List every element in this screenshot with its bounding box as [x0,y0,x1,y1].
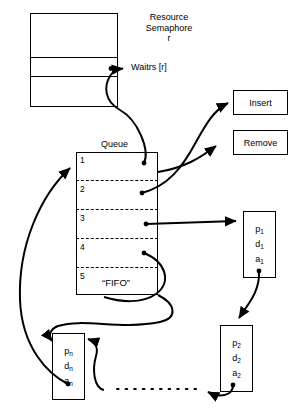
insert-box[interactable]: Insert [233,90,288,115]
queue-divider-2 [76,209,158,210]
semaphore-title: Resource Semaphore r [126,12,212,44]
waiters-label: Waitrs [r] [131,62,167,73]
queue-divider-1 [76,180,158,181]
queue-title: Queue [101,139,128,150]
queue-slot-1-number: 1 [80,156,85,165]
queue-slot-4-number: 4 [80,243,85,252]
arrow-queue-to-remove [158,146,216,172]
semaphore-divider-1 [30,57,118,58]
pcb-p1-data-field: d1 [255,240,264,249]
queue-slot-5-number: 5 [80,272,85,281]
pcb-p1-address-field: a1 [255,255,264,264]
arrow-chain-to-pcb-pn [88,339,104,390]
queue-block [76,152,158,295]
diagram-canvas: Resource Semaphore r Waitrs [r] Queue 1 … [0,0,298,420]
remove-box[interactable]: Remove [233,130,288,155]
queue-discipline-label: “FIFO” [102,277,130,288]
semaphore-block [30,13,118,107]
insert-label: Insert [249,98,272,108]
pcb-p2-address-field: a2 [232,369,241,378]
queue-divider-3 [76,238,158,239]
pcb-p2: p2 d2 a2 [220,325,253,392]
queue-slot-3-number: 3 [80,214,85,223]
queue-divider-4 [76,267,158,268]
semaphore-divider-2 [30,76,118,77]
arrow-pcb-p2-to-chain [112,383,235,396]
pcb-p1: p1 d1 a1 [243,211,276,278]
pcb-pn-data-field: dn [64,362,73,371]
pcb-p2-process-field: p2 [232,339,241,348]
semaphore-title-line3: r [126,33,212,44]
pcb-p1-process-field: p1 [255,225,264,234]
pcb-pn-address-field: an [64,377,73,386]
pcb-p2-data-field: d2 [232,354,241,363]
pcb-pn: pn dn an [52,333,85,400]
semaphore-title-line2: Semaphore [126,23,212,34]
remove-label: Remove [244,138,278,148]
semaphore-title-line1: Resource [126,12,212,23]
pcb-pn-process-field: pn [64,347,73,356]
queue-slot-2-number: 2 [80,185,85,194]
